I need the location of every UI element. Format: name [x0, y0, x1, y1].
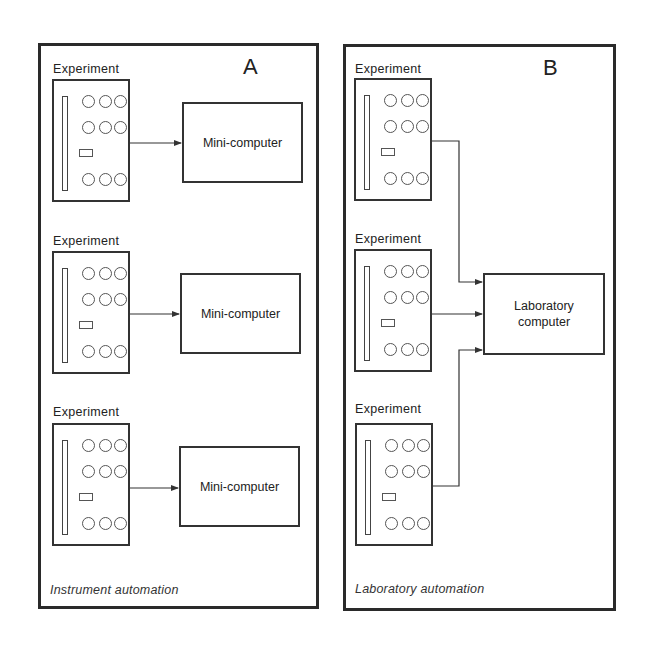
knob-icon — [385, 465, 398, 478]
knob-icon — [82, 267, 95, 280]
knob-icon — [401, 291, 414, 304]
knob-icon — [99, 267, 112, 280]
panel-b-letter: B — [543, 55, 558, 81]
knob-icon — [82, 121, 95, 134]
knob-icon — [384, 265, 397, 278]
knob-icon — [99, 345, 112, 358]
display-slot-icon — [382, 493, 396, 501]
knob-icon — [114, 517, 127, 530]
knob-icon — [82, 293, 95, 306]
knob-icon — [114, 95, 127, 108]
experiment-instrument — [355, 423, 433, 546]
experiment-instrument — [52, 251, 130, 374]
panel-a-caption: Instrument automation — [50, 583, 179, 597]
knob-icon — [99, 121, 112, 134]
mini-computer-box: Mini-computer — [180, 273, 301, 354]
knob-icon — [114, 267, 127, 280]
knob-icon — [402, 465, 415, 478]
laboratory-computer-box: Laboratory computer — [483, 273, 605, 355]
knob-icon — [114, 173, 127, 186]
experiment-label: Experiment — [53, 62, 119, 76]
knob-icon — [401, 265, 414, 278]
panel-a-letter: A — [243, 54, 258, 80]
experiment-instrument — [52, 423, 130, 546]
knob-icon — [99, 439, 112, 452]
display-slot-icon — [79, 493, 93, 501]
experiment-label: Experiment — [53, 405, 119, 419]
knob-icon — [82, 465, 95, 478]
gauge-bar-icon — [364, 95, 370, 190]
knob-icon — [384, 291, 397, 304]
knob-icon — [82, 345, 95, 358]
knob-icon — [384, 343, 397, 356]
knob-icon — [416, 172, 429, 185]
knob-icon — [417, 517, 430, 530]
knob-icon — [114, 345, 127, 358]
gauge-bar-icon — [62, 440, 68, 535]
knob-icon — [114, 465, 127, 478]
knob-icon — [401, 172, 414, 185]
knob-icon — [114, 293, 127, 306]
experiment-instrument — [354, 78, 432, 201]
knob-icon — [416, 291, 429, 304]
knob-icon — [82, 439, 95, 452]
knob-icon — [384, 172, 397, 185]
experiment-instrument — [52, 79, 130, 202]
knob-icon — [82, 517, 95, 530]
knob-icon — [416, 343, 429, 356]
knob-icon — [417, 439, 430, 452]
knob-icon — [402, 439, 415, 452]
gauge-bar-icon — [62, 268, 68, 363]
knob-icon — [82, 173, 95, 186]
knob-icon — [99, 95, 112, 108]
display-slot-icon — [381, 148, 395, 156]
knob-icon — [416, 265, 429, 278]
knob-icon — [417, 465, 430, 478]
experiment-label: Experiment — [53, 234, 119, 248]
knob-icon — [416, 94, 429, 107]
display-slot-icon — [79, 149, 93, 157]
gauge-bar-icon — [62, 96, 68, 191]
gauge-bar-icon — [364, 266, 370, 361]
mini-computer-box: Mini-computer — [179, 446, 300, 527]
knob-icon — [401, 343, 414, 356]
display-slot-icon — [381, 319, 395, 327]
knob-icon — [99, 293, 112, 306]
knob-icon — [401, 120, 414, 133]
experiment-label: Experiment — [355, 402, 421, 416]
display-slot-icon — [79, 321, 93, 329]
knob-icon — [114, 121, 127, 134]
knob-icon — [99, 465, 112, 478]
experiment-label: Experiment — [355, 62, 421, 76]
knob-icon — [384, 120, 397, 133]
experiment-label: Experiment — [355, 232, 421, 246]
knob-icon — [416, 120, 429, 133]
knob-icon — [82, 95, 95, 108]
knob-icon — [384, 94, 397, 107]
knob-icon — [114, 439, 127, 452]
knob-icon — [99, 173, 112, 186]
knob-icon — [99, 517, 112, 530]
knob-icon — [401, 94, 414, 107]
knob-icon — [385, 517, 398, 530]
panel-b-caption: Laboratory automation — [355, 582, 484, 596]
experiment-instrument — [354, 249, 432, 372]
mini-computer-box: Mini-computer — [182, 102, 303, 183]
knob-icon — [385, 439, 398, 452]
knob-icon — [402, 517, 415, 530]
gauge-bar-icon — [365, 440, 371, 535]
